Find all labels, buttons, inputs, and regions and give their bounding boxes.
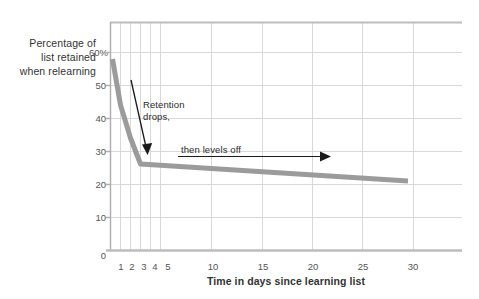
annotation-retention-drops-line-2: drops, <box>143 111 185 123</box>
annotation-then-levels-off: then levels off <box>181 144 241 156</box>
horizontal-gridlines <box>110 53 462 218</box>
vertical-gridlines <box>121 22 414 250</box>
retention-curve-figure: Percentage of list retained when relearn… <box>0 0 479 299</box>
annotation-retention-drops: Retention drops, <box>143 99 185 123</box>
annotation-retention-drops-line-1: Retention <box>143 99 185 111</box>
y-axis-ticks <box>106 53 110 218</box>
